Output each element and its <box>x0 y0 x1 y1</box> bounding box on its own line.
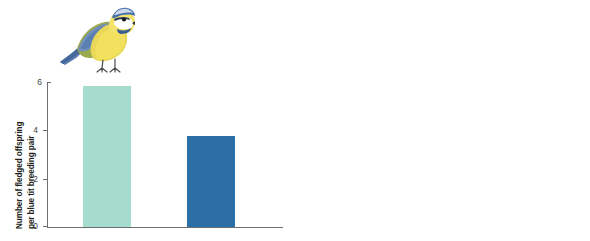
left-chart-bar-holm-oak <box>187 136 235 227</box>
left-chart-tick-4: 4 <box>43 130 47 131</box>
chart-panel-left: Number of fledged offspring per blue tit… <box>0 0 295 241</box>
left-chart-tick-label-6: 6 <box>37 77 42 87</box>
left-chart-tick-6: 6 <box>47 82 51 83</box>
left-chart-tick-0: 0 <box>43 226 47 227</box>
left-chart-tick-2: 2 <box>43 179 47 180</box>
left-y-title-line-2: per blue tit breeding pair <box>26 79 38 229</box>
blue-tit-bird-illustration <box>57 2 135 74</box>
left-chart-x-axis <box>47 227 283 228</box>
left-chart-y-axis <box>47 82 48 228</box>
left-chart-tick-label-0: 0 <box>33 221 38 231</box>
chart-panel-right: Number of adult blue tit breeding pairs … <box>295 0 590 241</box>
left-y-title-line-1: Number of fledged offspring <box>14 79 26 229</box>
left-chart-plot-area: 6 4 2 0 <box>47 82 283 228</box>
left-chart-bar-downy-oak <box>83 86 131 227</box>
left-chart-tick-label-2: 2 <box>33 174 38 184</box>
figure-root: Number of fledged offspring per blue tit… <box>0 0 590 241</box>
left-chart-y-axis-title: Number of fledged offspring per blue tit… <box>14 79 37 229</box>
left-chart-tick-label-4: 4 <box>33 125 38 135</box>
